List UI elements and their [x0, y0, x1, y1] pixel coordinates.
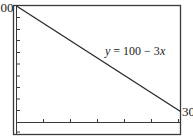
- y-max-label: 100: [0, 0, 14, 15]
- equation-label: y = 100 − 3x: [104, 44, 166, 58]
- equation-var-x: x: [159, 44, 166, 58]
- series-line: [17, 6, 181, 112]
- equation-body: = 100 − 3: [110, 44, 160, 58]
- line-chart: 100 30 y = 100 − 3x: [0, 0, 193, 138]
- y-axis-ticks: [17, 18, 21, 133]
- plot-frame: [14, 6, 181, 135]
- x-max-label: 30: [182, 104, 193, 119]
